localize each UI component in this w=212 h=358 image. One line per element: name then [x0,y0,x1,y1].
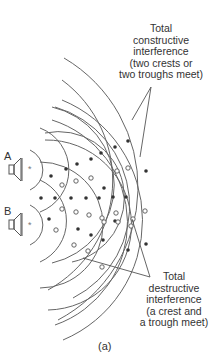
speaker-b-sound-mark: * [28,220,32,230]
constructive-line-5: two troughs meet) [108,69,212,81]
constructive-annotation: Total constructive interference (two cre… [108,23,212,81]
constructive-points [39,139,148,252]
speaker-a-sound-mark: * [28,164,32,174]
destructive-annotation: Total destructive interference (a crest … [132,271,212,329]
constructive-line-1: Total [108,23,212,35]
source-a-label: A [4,150,11,162]
destructive-line-1: Total [132,271,212,283]
figure-caption: (a) [98,340,111,352]
constructive-leader-lines [132,87,151,157]
source-b-label: B [4,205,11,217]
wavefronts-b [30,100,143,340]
destructive-line-5: a trough meet) [132,317,212,329]
destructive-line-3: interference [132,294,212,306]
constructive-line-3: interference [108,46,212,58]
